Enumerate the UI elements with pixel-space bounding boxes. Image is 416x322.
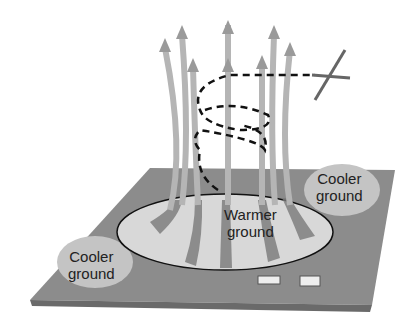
rising-air-arrows — [165, 25, 290, 210]
glider — [312, 50, 350, 100]
thermal-diagram — [0, 0, 416, 322]
label-line: ground — [68, 265, 115, 282]
label-line: Cooler — [316, 170, 363, 187]
label-line: Warmer — [224, 206, 277, 223]
label-line: ground — [224, 223, 277, 240]
label-line: ground — [316, 187, 363, 204]
cooler-ground-left-label: Cooler ground — [68, 248, 115, 282]
cooler-ground-right-label: Cooler ground — [316, 170, 363, 204]
label-line: Cooler — [68, 248, 115, 265]
warmer-ground-label: Warmer ground — [224, 206, 277, 240]
